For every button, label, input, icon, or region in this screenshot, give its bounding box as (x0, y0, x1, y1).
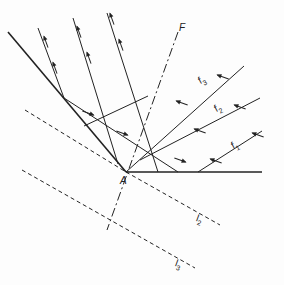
arrow-f3-a-icon (175, 99, 189, 108)
arrow-reflect-3-icon (174, 156, 188, 165)
diagram-canvas: F A f3 f2 f1 l2 l3 (0, 0, 284, 285)
arrow-reflect-1-icon (82, 109, 96, 118)
l3-dashed (22, 170, 195, 268)
ray-3-incident (107, 13, 158, 172)
reflection-diagram (0, 0, 284, 285)
wall-left (8, 32, 126, 172)
arrow-r2-b-icon (85, 51, 94, 65)
f1-line (198, 131, 262, 172)
label-f-axis: F (179, 23, 185, 33)
arrow-f1-b-icon (251, 131, 265, 140)
arrow-f2-a-icon (193, 127, 207, 136)
ray-1-incident (38, 28, 64, 98)
f3-line (126, 66, 244, 172)
arrow-f3-b-icon (216, 73, 230, 82)
arrow-f2-b-icon (233, 103, 247, 112)
ray-2-incident (73, 18, 118, 164)
arrow-r3-b-icon (117, 38, 126, 52)
label-point-a: A (120, 176, 127, 186)
l2-dashed (126, 172, 220, 225)
